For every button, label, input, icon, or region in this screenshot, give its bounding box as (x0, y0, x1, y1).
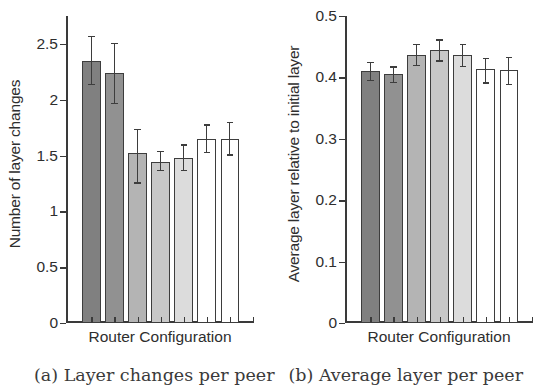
panel-b-x-tick (532, 317, 533, 323)
panel-b-y-tick-label: 0.3 (315, 130, 337, 148)
error-bar-cap-lower (181, 170, 187, 171)
error-bar-cap-lower (227, 154, 233, 155)
error-bar-cap-lower (111, 103, 117, 104)
panel-b-y-tick-label: 0.2 (315, 191, 337, 209)
panel-b-average-layer: Average layer relative to initial layer … (279, 0, 557, 355)
panel-b-y-tick (339, 323, 345, 324)
error-bar-cap-lower (483, 82, 489, 83)
error-bar-cap-lower (88, 84, 94, 85)
panel-b-x-tick (370, 317, 371, 323)
panel-a-y-tick-label: 2.5 (36, 35, 58, 53)
error-bar-cap-upper (204, 124, 210, 125)
figure-captions: (a) Layer changes per peer (b) Average l… (0, 358, 557, 392)
bar (151, 162, 169, 323)
error-bar-stem (508, 57, 509, 84)
panel-b-x-tick (393, 317, 394, 323)
panel-b-y-tick-label: 0 (328, 314, 337, 332)
bar (221, 139, 239, 323)
panel-b-bar-group (345, 16, 533, 323)
error-bar-cap-lower (390, 82, 396, 83)
panel-a-x-tick (114, 317, 115, 323)
panel-b-x-tick (463, 317, 464, 323)
panel-b-plot-area: 00.10.20.30.40.5 (345, 16, 533, 323)
panel-b-y-axis-title: Average layer relative to initial layer (285, 4, 307, 324)
panel-a-y-tick-label: 0 (49, 314, 58, 332)
panel-b-x-axis-title: Router Configuration (345, 328, 533, 346)
panel-b-y-tick (339, 262, 345, 263)
panel-b-y-tick-label: 0.1 (315, 253, 337, 271)
panel-a-y-tick (60, 323, 66, 324)
error-bar-stem (183, 144, 184, 170)
figure-two-panel-bar-charts: Number of layer changes 00.511.522.5 Rou… (0, 0, 557, 392)
panel-a-x-tick (184, 317, 185, 323)
panel-b-y-tick-label: 0.4 (315, 68, 337, 86)
error-bar-cap-upper (460, 44, 466, 45)
panel-a-x-tick (230, 317, 231, 323)
error-bar-stem (91, 36, 92, 84)
bar (105, 73, 123, 323)
bar (174, 158, 192, 323)
error-bar-cap-lower (413, 65, 419, 66)
error-bar-stem (370, 62, 371, 80)
error-bar-cap-upper (390, 66, 396, 67)
panel-b-y-tick (339, 77, 345, 78)
panel-a-bar-group (66, 16, 254, 323)
bar (82, 61, 100, 323)
panel-a-x-tick (161, 317, 162, 323)
panel-a-x-tick (91, 317, 92, 323)
error-bar-cap-lower (204, 152, 210, 153)
panel-b-x-tick (486, 317, 487, 323)
caption-a: (a) Layer changes per peer (34, 365, 275, 385)
error-bar-cap-upper (483, 58, 489, 59)
error-bar-stem (416, 44, 417, 65)
error-bar-cap-lower (134, 182, 140, 183)
error-bar-cap-upper (367, 62, 373, 63)
panel-a-y-tick-label: 1 (49, 202, 58, 220)
error-bar-cap-upper (227, 122, 233, 123)
bar (430, 50, 448, 323)
error-bar-stem (160, 151, 161, 170)
panel-a-x-axis-title: Router Configuration (66, 328, 254, 346)
error-bar-cap-lower (506, 84, 512, 85)
error-bar-stem (485, 58, 486, 83)
panel-b-x-tick (440, 317, 441, 323)
error-bar-cap-lower (436, 60, 442, 61)
panel-a-y-tick-label: 2 (49, 91, 58, 109)
error-bar-cap-upper (436, 39, 442, 40)
error-bar-stem (229, 122, 230, 154)
panel-a-y-axis-title: Number of layer changes (6, 4, 28, 324)
error-bar-cap-upper (111, 43, 117, 44)
error-bar-cap-lower (367, 80, 373, 81)
error-bar-cap-upper (506, 57, 512, 58)
panel-a-plot-area: 00.511.522.5 (66, 16, 254, 323)
panel-b-x-tick (509, 317, 510, 323)
error-bar-stem (137, 129, 138, 183)
error-bar-stem (462, 44, 463, 66)
error-bar-cap-upper (134, 129, 140, 130)
panel-a-y-tick (60, 267, 66, 268)
caption-b: (b) Average layer per peer (289, 365, 523, 385)
error-bar-cap-lower (460, 66, 466, 67)
panel-a-y-tick-label: 1.5 (36, 147, 58, 165)
bar (500, 70, 518, 323)
error-bar-stem (114, 43, 115, 103)
panel-b-y-tick (339, 200, 345, 201)
bar (407, 55, 425, 323)
error-bar-cap-upper (88, 36, 94, 37)
error-bar-cap-upper (157, 151, 163, 152)
panel-a-y-tick (60, 44, 66, 45)
panel-b-y-tick (339, 139, 345, 140)
bar (476, 69, 494, 323)
panel-a-y-tick (60, 100, 66, 101)
panel-a-layer-changes: Number of layer changes 00.511.522.5 Rou… (0, 0, 278, 355)
panel-a-y-tick (60, 211, 66, 212)
bar (361, 71, 379, 323)
bar (453, 55, 471, 323)
error-bar-stem (206, 124, 207, 152)
panel-b-y-tick (339, 16, 345, 17)
panel-a-x-tick (138, 317, 139, 323)
panel-a-x-tick (253, 317, 254, 323)
panel-a-x-tick (207, 317, 208, 323)
panel-b-y-tick-label: 0.5 (315, 7, 337, 25)
error-bar-stem (393, 66, 394, 81)
